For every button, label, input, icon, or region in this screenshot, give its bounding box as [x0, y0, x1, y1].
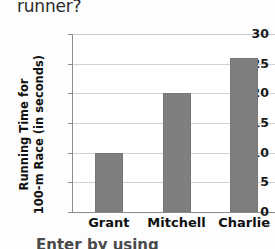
question-text-fragment: runner?: [17, 0, 81, 16]
bar: [230, 58, 258, 212]
y-axis-tick-mark: [68, 153, 73, 154]
bar: [95, 153, 123, 212]
y-axis-tick-mark: [68, 93, 73, 94]
y-axis-tick-mark: [68, 64, 73, 65]
y-axis-tick-label: 30: [213, 26, 275, 41]
y-axis-tick-mark: [68, 182, 73, 183]
y-axis-title-line-1: Running Time for: [17, 40, 32, 230]
y-axis-title: Running Time for 100-m Race (in seconds): [17, 40, 46, 230]
y-axis-title-line-2: 100-m Race (in seconds): [31, 40, 46, 230]
y-axis-tick-mark: [68, 34, 73, 35]
x-axis-tick-label: Charlie: [199, 215, 275, 230]
y-axis-tick-mark: [68, 123, 73, 124]
caption-text-fragment: Enter by using: [36, 238, 159, 249]
bar: [163, 93, 191, 212]
